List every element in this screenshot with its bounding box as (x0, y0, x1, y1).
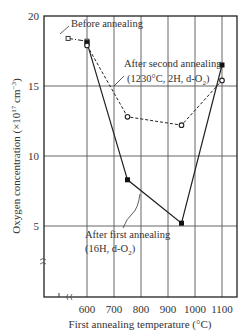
y-axis-break-icon (40, 259, 46, 265)
data-point (85, 43, 90, 48)
x-ticks: 60070080090010001100 (79, 303, 234, 315)
x-tick-label: 800 (133, 303, 150, 315)
axis-breaks (40, 259, 72, 301)
y-tick-label: 10 (28, 150, 40, 162)
x-tick-label: 1000 (184, 303, 207, 315)
series-line (87, 43, 222, 224)
annotation-first-annealing-line2: (16H, d-O2) (85, 243, 136, 257)
series-line (68, 38, 87, 41)
annotation-first-annealing: After first annealing (85, 229, 171, 240)
y-ticks: 5101520 (28, 10, 40, 232)
annotation-before-annealing: Before annealing (71, 18, 144, 29)
leader-second (114, 76, 124, 86)
y-tick-label: 5 (34, 220, 40, 232)
y-tick-label: 20 (28, 10, 40, 22)
x-tick-label: 600 (79, 303, 96, 315)
data-point (220, 78, 225, 83)
annotation-second-annealing: After second annealing (124, 58, 222, 69)
y-tick-label: 15 (28, 80, 40, 92)
data-point (179, 221, 184, 226)
y-axis-label: Oxygen concentration (×1017 cm−3) (10, 78, 23, 234)
x-tick-label: 700 (106, 303, 123, 315)
x-tick-label: 900 (160, 303, 177, 315)
oxygen-concentration-chart: 60070080090010001100 5101520 Before anne… (0, 0, 247, 336)
data-point (125, 115, 130, 120)
leader-before (60, 26, 69, 34)
data-point (66, 36, 70, 40)
x-axis-label: First annealing temperature (°C) (69, 318, 212, 331)
x-tick-label: 1100 (211, 303, 233, 315)
leader-first (123, 194, 140, 228)
data-point (125, 177, 130, 182)
data-point (179, 123, 184, 128)
